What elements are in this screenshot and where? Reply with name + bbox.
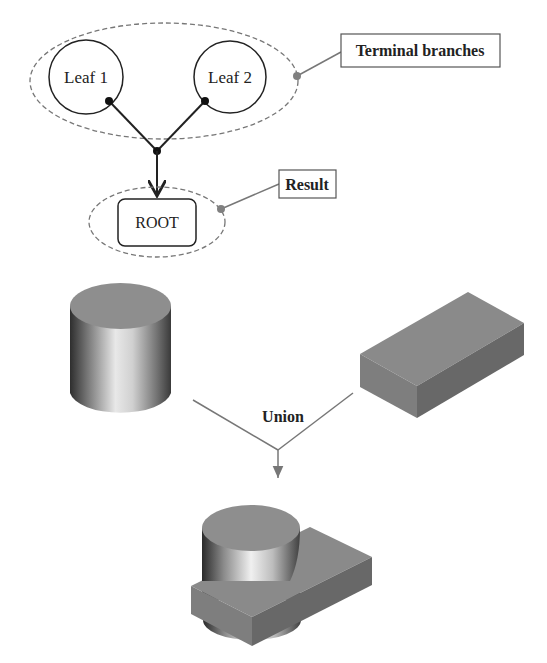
root-label: ROOT (135, 214, 179, 231)
edge-leaf2-junction (157, 101, 205, 151)
terminal-branches-label: Terminal branches (356, 42, 485, 59)
csg-illustration: Union (70, 283, 524, 646)
root-node: ROOT (118, 199, 196, 246)
result-callout: Result (217, 170, 336, 213)
tree-diagram: Leaf 1 Leaf 2 ROOT Terminal branches (30, 23, 500, 257)
input-box (360, 292, 524, 418)
input-cylinder (70, 283, 171, 413)
edge-leaf1-junction (109, 101, 157, 151)
terminal-branches-callout: Terminal branches (293, 34, 500, 80)
leaf-1-port-dot (105, 97, 113, 105)
leaf-2-label: Leaf 2 (208, 68, 252, 87)
union-label: Union (262, 408, 304, 425)
callout-dot (217, 205, 225, 213)
diagram-canvas: Leaf 1 Leaf 2 ROOT Terminal branches (0, 0, 547, 663)
leaf-2-port-dot (201, 97, 209, 105)
callout-dot (293, 72, 301, 80)
result-label: Result (285, 176, 329, 193)
leaf-1-label: Leaf 1 (64, 68, 108, 87)
union-result-solid (191, 505, 372, 646)
